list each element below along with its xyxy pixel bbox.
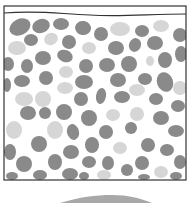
pebble-light <box>173 81 187 95</box>
pebble-dark <box>62 168 78 180</box>
pebble-dark <box>141 138 155 152</box>
pebble-light <box>59 66 73 78</box>
pebble-dark <box>24 34 38 46</box>
pebble-dark <box>21 59 33 73</box>
pebble-dark <box>125 122 137 134</box>
pebble-dark <box>53 18 69 30</box>
pebble-light <box>8 41 26 55</box>
pebble-dark <box>39 71 53 85</box>
pebble-dark <box>153 111 169 125</box>
pebble-dark <box>14 75 30 87</box>
pebble-dark <box>99 125 113 139</box>
pebble-dark <box>85 137 99 153</box>
pebble-dark <box>168 125 184 137</box>
pebble-dark <box>138 73 152 85</box>
pebble-light <box>57 82 73 94</box>
pebble-dark <box>4 144 16 160</box>
pebble-dark <box>16 156 32 172</box>
pebble-dark <box>174 155 186 169</box>
pebble-dark <box>33 170 47 180</box>
pebble-dark <box>175 46 187 62</box>
pebble-dark <box>147 36 163 50</box>
pebble-dark <box>48 154 62 170</box>
pebble-dark <box>20 106 36 120</box>
pebble-dark <box>110 73 126 87</box>
pebble-dark <box>160 144 174 156</box>
pebble-light <box>110 22 130 36</box>
pebble-dark <box>94 27 108 41</box>
pebble-light <box>129 84 145 96</box>
pebble-light <box>47 121 63 139</box>
pebble-dark <box>158 52 172 68</box>
pebble-dark <box>99 58 115 72</box>
pebble-dark <box>170 172 182 180</box>
pebble-dark <box>173 28 187 42</box>
pebble-dark <box>138 174 150 180</box>
pebble-light <box>15 92 33 106</box>
pebble-light <box>146 56 154 66</box>
pebble-dark <box>79 172 89 180</box>
pebble-light <box>113 142 127 154</box>
pebble-light <box>130 107 144 121</box>
pebble-dark <box>102 156 114 170</box>
pebble-dark <box>82 156 96 168</box>
pebble-light <box>35 91 51 107</box>
pebble-light <box>97 170 111 180</box>
pebble-dark <box>121 164 133 176</box>
pebble-dark <box>81 110 97 126</box>
pebble-dark <box>63 145 79 159</box>
pebble-diagram <box>0 0 192 203</box>
pebble-dark <box>62 35 76 49</box>
pebble-dark <box>35 51 51 65</box>
pebble-dark <box>121 56 137 72</box>
pebble-light <box>153 20 169 32</box>
pebble-dark <box>171 100 185 112</box>
pebble-dark <box>56 104 72 120</box>
pebble-dark <box>114 91 130 103</box>
pebble-light <box>154 166 168 178</box>
pebble-light <box>106 109 120 121</box>
pebble-dark <box>79 59 93 73</box>
pebble-dark <box>135 156 149 170</box>
pebble-dark <box>75 75 93 89</box>
pebble-dark <box>74 92 88 106</box>
pebble-dark <box>39 107 51 119</box>
pebble-dark <box>149 93 163 105</box>
pebble-dark <box>135 25 149 37</box>
pebble-light <box>6 121 22 139</box>
pebble-dark <box>31 136 47 152</box>
pebble-dark <box>6 172 18 180</box>
pebble-dark <box>108 41 124 55</box>
pebble-light <box>82 42 96 54</box>
